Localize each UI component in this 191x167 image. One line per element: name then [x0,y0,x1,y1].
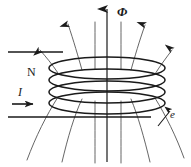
field-line-mid-left-upper [68,24,82,70]
field-line-mid-left [62,99,82,162]
field-line-mid-right-upper [131,25,145,70]
turns-label: N [27,66,36,78]
current-label: I [18,86,22,98]
diagram-canvas [0,0,191,167]
field-line-outer-left [27,97,58,160]
emf-label: e [170,109,175,120]
field-line-outer-right [155,98,184,158]
physics-diagram-figure: Φ N I e [0,0,191,167]
flux-label: Φ [117,5,127,18]
field-line-mid-right [131,99,150,162]
